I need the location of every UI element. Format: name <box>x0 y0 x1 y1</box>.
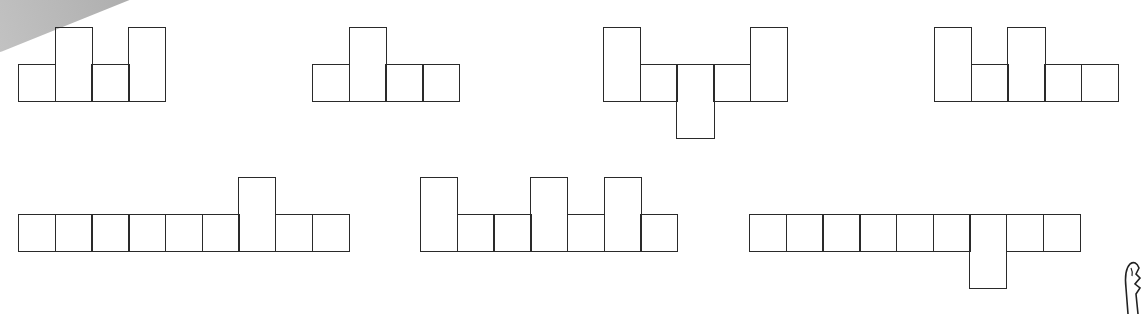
square-cell <box>604 177 642 252</box>
square-cell <box>18 214 56 252</box>
square-cell <box>91 214 129 252</box>
square-cell <box>55 27 93 102</box>
square-cell <box>312 64 350 102</box>
square-cell <box>128 27 166 102</box>
square-cell <box>969 214 1007 289</box>
square-cell <box>55 214 93 252</box>
square-cell <box>275 214 313 252</box>
square-cell <box>1081 64 1119 102</box>
square-cell <box>1043 214 1081 252</box>
square-cell <box>750 27 788 102</box>
square-cell <box>165 214 203 252</box>
square-cell <box>493 214 531 252</box>
square-cell <box>385 64 423 102</box>
square-cell <box>934 27 972 102</box>
square-cell <box>896 214 934 252</box>
square-cell <box>1044 64 1082 102</box>
square-cell <box>640 64 678 102</box>
square-cell <box>91 64 129 102</box>
square-cell <box>1007 27 1045 102</box>
square-cell <box>567 214 605 252</box>
square-cell <box>18 64 56 102</box>
square-cell <box>420 177 458 252</box>
square-cell <box>603 27 641 102</box>
square-cell <box>312 214 350 252</box>
square-cell <box>971 64 1009 102</box>
cartoon-doodle-icon <box>1122 258 1142 315</box>
square-cell <box>676 64 714 139</box>
square-cell <box>530 177 568 252</box>
square-cell <box>202 214 240 252</box>
square-cell <box>422 64 460 102</box>
square-cell <box>349 27 387 102</box>
square-cell <box>933 214 971 252</box>
square-cell <box>859 214 897 252</box>
square-cell <box>640 214 678 252</box>
square-cell <box>238 177 276 252</box>
square-cell <box>822 214 860 252</box>
square-cell <box>786 214 824 252</box>
square-cell <box>749 214 787 252</box>
square-cell <box>1006 214 1044 252</box>
square-cell <box>457 214 495 252</box>
square-cell <box>713 64 751 102</box>
square-cell <box>128 214 166 252</box>
